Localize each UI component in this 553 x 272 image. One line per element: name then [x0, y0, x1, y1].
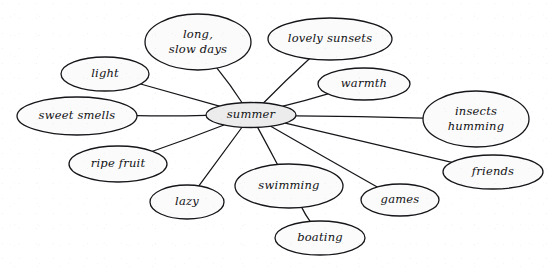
edge-swimming-boating	[302, 207, 310, 221]
node-label-line: swimming	[258, 178, 319, 192]
node-label-summer: summer	[227, 107, 277, 121]
node-lazy[interactable]: lazy	[150, 185, 224, 219]
node-label-swimming: swimming	[258, 178, 319, 192]
node-label-ripe-fruit: ripe fruit	[91, 156, 146, 170]
concept-web-diagram: long,slow dayslovely sunsetslightsweet s…	[0, 0, 553, 272]
node-label-line: slow days	[169, 42, 227, 56]
node-label-line: warmth	[341, 76, 387, 90]
node-label-line: friends	[471, 164, 514, 178]
node-label-lazy: lazy	[175, 194, 199, 208]
node-ripe-fruit[interactable]: ripe fruit	[69, 146, 167, 182]
node-swimming[interactable]: swimming	[235, 164, 343, 208]
edge-summer-swimming	[258, 127, 278, 164]
node-lovely-sunsets[interactable]: lovely sunsets	[268, 18, 392, 60]
edge-summer-light	[141, 84, 220, 106]
node-games[interactable]: games	[361, 184, 439, 216]
node-label-light: light	[91, 66, 119, 80]
node-label-line: light	[91, 66, 119, 80]
node-label-line: sweet smells	[39, 108, 116, 122]
node-label-line: lovely sunsets	[288, 31, 372, 45]
node-label-insects-humming: insectshumming	[448, 104, 504, 133]
concept-web-canvas: long,slow dayslovely sunsetslightsweet s…	[0, 0, 553, 272]
node-label-line: long,	[183, 27, 213, 41]
edge-summer-sweet-smells	[137, 115, 206, 116]
node-label-line: ripe fruit	[91, 156, 146, 170]
node-label-warmth: warmth	[341, 76, 387, 90]
edge-summer-warmth	[283, 94, 328, 106]
node-summer[interactable]: summer	[206, 103, 296, 128]
node-label-line: boating	[297, 230, 343, 244]
edge-summer-lovely-sunsets	[263, 59, 309, 103]
node-label-line: insects	[455, 104, 497, 118]
node-warmth[interactable]: warmth	[318, 68, 410, 100]
edge-summer-insects-humming	[296, 116, 423, 118]
edge-summer-long-slow-days	[217, 68, 242, 103]
node-label-friends: friends	[471, 164, 514, 178]
node-light[interactable]: light	[61, 57, 149, 91]
node-label-line: games	[381, 192, 420, 206]
nodes-layer: long,slow dayslovely sunsetslightsweet s…	[17, 14, 543, 255]
edge-summer-lazy	[199, 127, 242, 186]
node-label-boating: boating	[297, 230, 343, 244]
node-label-line: lazy	[175, 194, 199, 208]
node-sweet-smells[interactable]: sweet smells	[17, 97, 137, 135]
edge-summer-ripe-fruit	[153, 125, 224, 151]
node-insects-humming[interactable]: insectshumming	[423, 91, 529, 147]
node-label-sweet-smells: sweet smells	[39, 108, 116, 122]
node-boating[interactable]: boating	[275, 221, 365, 255]
node-label-lovely-sunsets: lovely sunsets	[288, 31, 372, 45]
node-label-line: humming	[448, 119, 504, 133]
node-label-games: games	[381, 192, 420, 206]
node-label-line: summer	[227, 107, 277, 121]
node-friends[interactable]: friends	[443, 155, 543, 189]
node-long-slow-days[interactable]: long,slow days	[145, 14, 251, 70]
